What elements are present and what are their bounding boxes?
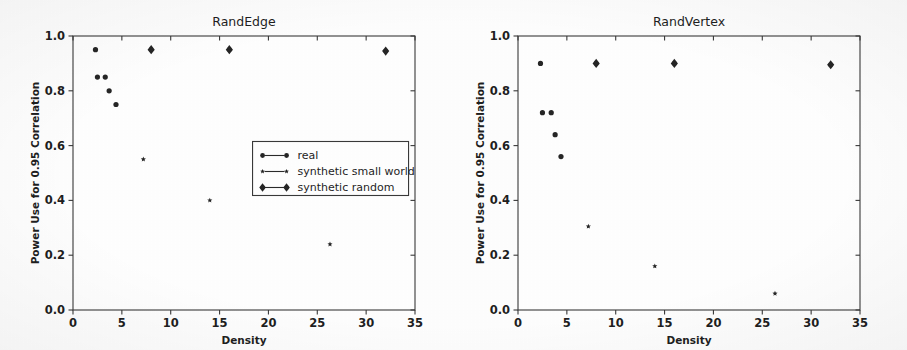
x-tick-label: 20	[260, 316, 276, 330]
marker-real	[113, 102, 118, 107]
legend-label-0: real	[298, 149, 319, 162]
marker-real	[107, 88, 112, 93]
x-axis-label: Density	[666, 334, 711, 346]
marker-real	[95, 75, 100, 80]
chart-title: RandEdge	[212, 14, 276, 29]
x-tick-label: 30	[358, 316, 374, 330]
x-tick-label: 5	[118, 316, 126, 330]
x-tick-label: 35	[852, 316, 868, 330]
y-tick-label: 0.0	[490, 303, 510, 317]
y-tick-label: 0.6	[490, 139, 510, 153]
y-tick-label: 0.2	[45, 248, 65, 262]
x-tick-label: 0	[514, 316, 522, 330]
y-tick-label: 0.8	[45, 84, 65, 98]
randvertex-plot: 051015202530350.00.20.40.60.81.0DensityP…	[452, 0, 907, 350]
x-tick-label: 10	[163, 316, 179, 330]
legend-label-2: synthetic random	[298, 181, 395, 194]
y-tick-label: 0.8	[490, 84, 510, 98]
x-tick-label: 35	[407, 316, 423, 330]
randedge-plot: 051015202530350.00.20.40.60.81.0DensityP…	[0, 0, 455, 350]
figure-canvas: 051015202530350.00.20.40.60.81.0DensityP…	[0, 0, 907, 350]
x-tick-label: 25	[754, 316, 770, 330]
x-tick-label: 25	[309, 316, 325, 330]
y-tick-label: 0.4	[45, 193, 65, 207]
marker-real	[284, 153, 289, 158]
marker-real	[103, 75, 108, 80]
x-tick-label: 0	[69, 316, 77, 330]
marker-real	[540, 110, 545, 115]
legend-label-1: synthetic small world	[298, 165, 415, 178]
chart-title: RandVertex	[653, 14, 725, 29]
x-tick-label: 10	[608, 316, 624, 330]
y-axis-label: Power Use for 0.95 Correlation	[29, 82, 41, 265]
chart-panel-randvertex: 051015202530350.00.20.40.60.81.0DensityP…	[452, 0, 907, 350]
y-tick-label: 0.2	[490, 248, 510, 262]
chart-panel-randedge: 051015202530350.00.20.40.60.81.0DensityP…	[0, 0, 455, 350]
x-tick-label: 5	[563, 316, 571, 330]
y-tick-label: 0.0	[45, 303, 65, 317]
marker-real	[549, 110, 554, 115]
marker-real	[538, 61, 543, 66]
marker-real	[260, 153, 265, 158]
x-tick-label: 15	[657, 316, 673, 330]
y-axis-label: Power Use for 0.95 Correlation	[474, 82, 486, 265]
y-tick-label: 0.4	[490, 193, 510, 207]
legend: realsynthetic small worldsynthetic rando…	[253, 141, 415, 195]
plot-background	[518, 36, 860, 310]
y-tick-label: 0.6	[45, 139, 65, 153]
x-tick-label: 20	[705, 316, 721, 330]
y-tick-label: 1.0	[490, 29, 510, 43]
x-tick-label: 15	[212, 316, 228, 330]
marker-real	[553, 132, 558, 137]
x-axis-label: Density	[221, 334, 266, 346]
marker-real	[558, 154, 563, 159]
marker-real	[93, 47, 98, 52]
x-tick-label: 30	[803, 316, 819, 330]
y-tick-label: 1.0	[45, 29, 65, 43]
